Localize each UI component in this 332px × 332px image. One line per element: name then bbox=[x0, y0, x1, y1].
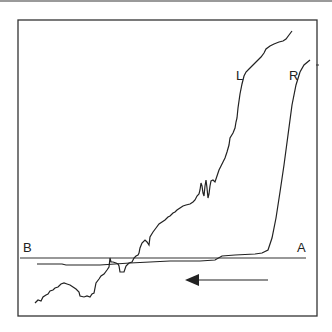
label-l: L bbox=[236, 68, 243, 83]
frame bbox=[18, 20, 317, 316]
label-r: R bbox=[289, 68, 298, 83]
arrow-left-icon bbox=[185, 274, 199, 286]
trace-diagram bbox=[0, 0, 332, 332]
label-a: A bbox=[297, 240, 306, 255]
trace-l bbox=[35, 31, 292, 303]
label-b: B bbox=[23, 240, 32, 255]
trace-r bbox=[37, 60, 310, 265]
